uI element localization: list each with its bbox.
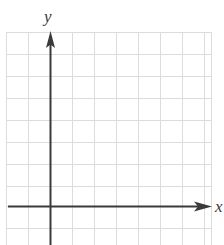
coordinate-grid-figure: y x [0, 0, 224, 245]
figure-background [0, 0, 224, 245]
y-axis-label: y [44, 8, 52, 25]
graph-canvas [0, 0, 224, 245]
x-axis-label: x [215, 198, 223, 215]
